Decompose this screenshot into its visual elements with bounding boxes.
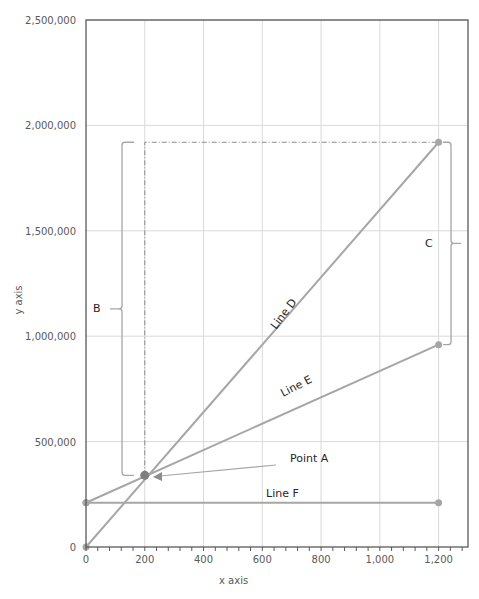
x-tick-label: 1,200 (424, 554, 453, 565)
y-tick-label: 1,500,000 (25, 226, 76, 237)
x-tick-label: 800 (312, 554, 331, 565)
arrow-head-icon (153, 472, 162, 481)
brace-c-label: C (425, 237, 433, 250)
y-axis-title: y axis (13, 285, 24, 314)
point-a-marker (140, 471, 149, 480)
data-point-marker (435, 499, 442, 506)
line-chart: 02004006008001,0001,2000500,0001,000,000… (0, 0, 479, 599)
y-tick-label: 0 (70, 542, 76, 553)
data-point-marker (435, 341, 442, 348)
plot-frame (86, 20, 468, 547)
y-tick-label: 500,000 (35, 437, 76, 448)
y-tick-label: 1,000,000 (25, 331, 76, 342)
x-tick-label: 400 (194, 554, 213, 565)
y-tick-label: 2,500,000 (25, 15, 76, 26)
x-tick-label: 200 (135, 554, 154, 565)
gridlines (86, 20, 468, 547)
x-tick-label: 1,000 (366, 554, 395, 565)
line-d-label: Line D (268, 296, 299, 332)
point-a-label: Point A (290, 452, 329, 465)
y-tick-label: 2,000,000 (25, 120, 76, 131)
data-point-marker (435, 139, 442, 146)
brace-b-label: B (93, 302, 101, 315)
line-f-label: Line F (266, 487, 299, 500)
axes: 02004006008001,0001,2000500,0001,000,000… (25, 15, 468, 565)
x-tick-label: 0 (83, 554, 89, 565)
x-tick-label: 600 (253, 554, 272, 565)
brace-c (443, 142, 461, 344)
x-axis-title: x axis (219, 575, 248, 586)
point-a-arrow-line (160, 465, 276, 476)
line-e-label: Line E (278, 373, 314, 400)
brace-b (110, 142, 134, 475)
